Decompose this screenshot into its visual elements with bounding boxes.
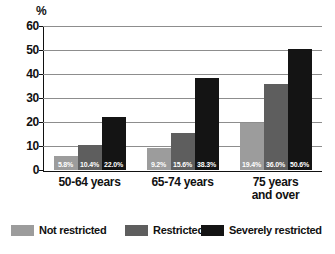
bar-value-label: 22.0% xyxy=(102,161,126,169)
y-axis-tick-label: 50 xyxy=(7,44,39,56)
plot-area: 5.8%10.4%22.0%9.2%15.6%38.3%19.4%36.0%50… xyxy=(43,26,322,170)
y-axis-tick-label: 60 xyxy=(7,20,39,32)
bar[interactable]: 36.0% xyxy=(264,84,288,170)
x-axis-category-labels: 50-64 years65-74 years75 yearsand over xyxy=(43,176,322,210)
legend-swatch xyxy=(125,225,148,236)
bar[interactable]: 22.0% xyxy=(102,117,126,170)
bar[interactable]: 5.8% xyxy=(54,156,78,170)
bar-value-label: 15.6% xyxy=(171,161,195,169)
bar-group: 5.8%10.4%22.0% xyxy=(43,26,136,170)
bar-value-label: 19.4% xyxy=(240,161,264,169)
legend-swatch xyxy=(201,225,224,236)
legend-label: Severely restricted xyxy=(229,224,322,236)
legend-item[interactable]: Severely restricted xyxy=(201,222,322,238)
bar[interactable]: 38.3% xyxy=(195,78,219,170)
bar-value-label: 9.2% xyxy=(147,161,171,169)
bar-value-label: 38.3% xyxy=(195,161,219,169)
y-axis-tick-label: 40 xyxy=(7,68,39,80)
legend-label: Restricted xyxy=(153,224,204,236)
bar-value-label: 36.0% xyxy=(264,161,288,169)
y-axis-unit-label: % xyxy=(36,5,46,17)
x-axis-category-label: 75 yearsand over xyxy=(221,176,331,202)
bar-group: 9.2%15.6%38.3% xyxy=(136,26,229,170)
bar[interactable]: 19.4% xyxy=(240,123,264,170)
x-axis-line xyxy=(43,171,322,172)
legend-swatch xyxy=(11,225,34,236)
bar[interactable]: 9.2% xyxy=(147,148,171,170)
legend-label: Not restricted xyxy=(39,224,106,236)
bar-chart: % 6050403020100 5.8%10.4%22.0%9.2%15.6%3… xyxy=(0,0,335,254)
bar-value-label: 10.4% xyxy=(78,161,102,169)
bar-value-label: 5.8% xyxy=(54,161,78,169)
bar-group: 19.4%36.0%50.6% xyxy=(229,26,322,170)
bar[interactable]: 50.6% xyxy=(288,49,312,170)
x-axis-category-label-line: and over xyxy=(221,189,331,202)
chart-legend: Not restrictedRestrictedSeverely restric… xyxy=(11,222,329,240)
y-axis-tick-label: 20 xyxy=(7,116,39,128)
y-axis-tick-label: 30 xyxy=(7,92,39,104)
bar[interactable]: 10.4% xyxy=(78,145,102,170)
bar[interactable]: 15.6% xyxy=(171,133,195,170)
bar-value-label: 50.6% xyxy=(288,161,312,169)
legend-item[interactable]: Not restricted xyxy=(11,222,106,238)
y-axis-tick-label: 0 xyxy=(7,164,39,176)
legend-item[interactable]: Restricted xyxy=(125,222,204,238)
y-axis-tick-labels: 6050403020100 xyxy=(4,26,39,172)
y-axis-tick-label: 10 xyxy=(7,140,39,152)
